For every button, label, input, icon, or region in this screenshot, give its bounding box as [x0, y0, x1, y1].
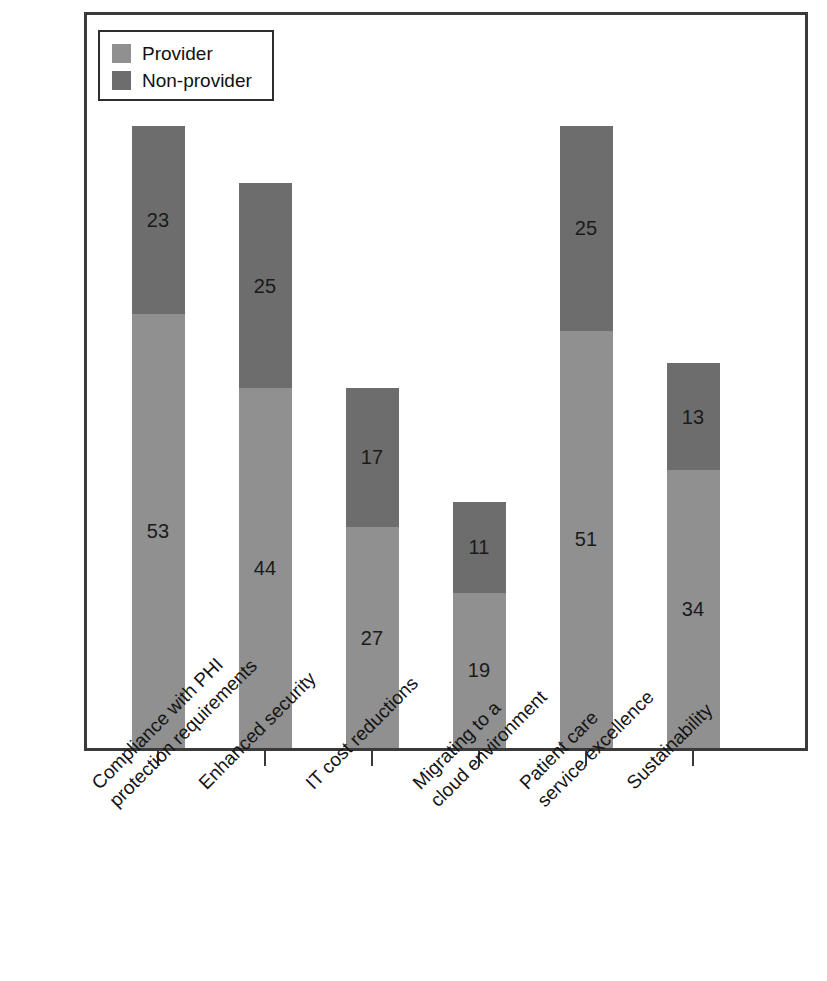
bar-segment-non-provider: 25	[560, 126, 613, 331]
bar-segment-provider: 53	[132, 314, 185, 748]
bar-value-label: 34	[682, 599, 705, 619]
legend-item-non-provider: Non-provider	[112, 67, 262, 94]
legend-swatch-provider-icon	[112, 44, 131, 63]
chart-legend: Provider Non-provider	[98, 30, 274, 101]
bar-value-label: 44	[254, 558, 277, 578]
bar-value-label: 25	[575, 218, 598, 238]
bar-value-label: 17	[361, 447, 384, 467]
stacked-bar-chart: 235325441727111925511334 Provider Non-pr…	[0, 0, 827, 981]
bar-value-label: 53	[147, 521, 170, 541]
bars-layer: 235325441727111925511334	[84, 12, 808, 751]
bar-value-label: 25	[254, 276, 277, 296]
bar-value-label: 51	[575, 529, 598, 549]
bar-segment-non-provider: 17	[346, 388, 399, 527]
legend-item-provider: Provider	[112, 40, 262, 67]
legend-label-provider: Provider	[142, 43, 213, 65]
bar-value-label: 11	[468, 537, 489, 557]
bar-value-label: 23	[147, 210, 170, 230]
bar-value-label: 13	[682, 407, 705, 427]
bar-segment-non-provider: 11	[453, 502, 506, 592]
bar-group: 1334	[667, 363, 720, 748]
legend-swatch-non-provider-icon	[112, 71, 131, 90]
bar-value-label: 19	[468, 660, 491, 680]
x-axis-category-labels: Compliance with PHIprotection requiremen…	[0, 751, 827, 981]
bar-segment-non-provider: 25	[239, 183, 292, 388]
bar-segment-non-provider: 23	[132, 126, 185, 314]
bar-value-label: 27	[361, 628, 384, 648]
legend-label-non-provider: Non-provider	[142, 70, 252, 92]
bar-group: 2353	[132, 126, 185, 748]
bar-segment-non-provider: 13	[667, 363, 720, 469]
bar-group: 2551	[560, 126, 613, 748]
